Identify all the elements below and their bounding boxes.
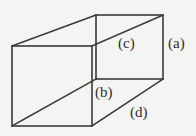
edge-bottom-left — [12, 79, 96, 126]
edge-top-left — [12, 15, 96, 46]
label-c: (c) — [118, 35, 135, 52]
label-a: (a) — [168, 35, 185, 52]
prism-diagram: (c) (a) (b) (d) — [0, 0, 196, 136]
label-b: (b) — [95, 84, 113, 101]
label-d: (d) — [130, 104, 148, 121]
front-face — [12, 46, 92, 126]
